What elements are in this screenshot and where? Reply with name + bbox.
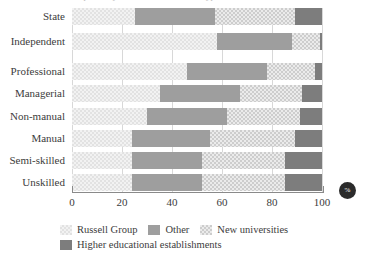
- x-tick-label-40: 40: [167, 196, 178, 208]
- bar-segment-managerial-other[interactable]: [160, 85, 240, 102]
- bar-row-professional: Professional: [72, 63, 322, 80]
- bar-segment-manual-new-universities[interactable]: [210, 130, 295, 147]
- bar-segment-non-manual-new-universities[interactable]: [227, 108, 300, 125]
- bar-row-state: State: [72, 8, 322, 25]
- y-axis-label-unskilled: Unskilled: [22, 174, 65, 191]
- bar-segment-state-new-universities[interactable]: [215, 8, 295, 25]
- bar-segment-independent-russell-group[interactable]: [72, 33, 217, 50]
- y-axis-label-managerial: Managerial: [15, 85, 65, 102]
- bar-segment-independent-higher-educational-establishments[interactable]: [320, 33, 323, 50]
- plot-area: StateIndependentProfessionalManagerialNo…: [72, 8, 322, 192]
- legend-swatch-russell-group-icon: [60, 225, 72, 235]
- bar-segment-independent-other[interactable]: [217, 33, 292, 50]
- legend-label-russell-group: Russell Group: [77, 224, 137, 235]
- legend-item-russell-group[interactable]: Russell Group: [60, 224, 137, 235]
- bar-segment-semi-skilled-new-universities[interactable]: [202, 152, 285, 169]
- y-axis-label-independent: Independent: [11, 33, 65, 50]
- bar-segment-unskilled-higher-educational-establishments[interactable]: [285, 174, 323, 191]
- bar-segment-non-manual-other[interactable]: [147, 108, 227, 125]
- bar-row-non-manual: Non-manual: [72, 108, 322, 125]
- chart-title-text: Participation by social class and school…: [60, 0, 219, 1]
- bar-segment-unskilled-new-universities[interactable]: [202, 174, 285, 191]
- bar-row-independent: Independent: [72, 33, 322, 50]
- bar-segment-managerial-new-universities[interactable]: [240, 85, 303, 102]
- bar-row-manual: Manual: [72, 130, 322, 147]
- bar-segment-managerial-higher-educational-establishments[interactable]: [302, 85, 322, 102]
- legend-swatch-higher-educational-establishments-icon: [60, 240, 72, 250]
- legend-label-other: Other: [165, 224, 189, 235]
- legend-item-other[interactable]: Other: [148, 224, 189, 235]
- x-axis-start-cap: [72, 186, 73, 192]
- bar-segment-managerial-russell-group[interactable]: [72, 85, 160, 102]
- chart-legend: Russell Group Other New universities Hig…: [60, 222, 360, 252]
- y-axis-label-state: State: [43, 8, 65, 25]
- stacked-bar-chart: Participation by social class and school…: [0, 0, 382, 256]
- bar-row-semi-skilled: Semi-skilled: [72, 152, 322, 169]
- bar-segment-manual-russell-group[interactable]: [72, 130, 132, 147]
- bar-segment-semi-skilled-russell-group[interactable]: [72, 152, 132, 169]
- bar-segment-manual-higher-educational-establishments[interactable]: [295, 130, 323, 147]
- bar-segment-state-russell-group[interactable]: [72, 8, 135, 25]
- bar-segment-unskilled-russell-group[interactable]: [72, 174, 132, 191]
- bar-row-unskilled: Unskilled: [72, 174, 322, 191]
- y-axis-label-manual: Manual: [31, 130, 65, 147]
- x-tick-label-60: 60: [217, 196, 228, 208]
- bar-row-managerial: Managerial: [72, 85, 322, 102]
- bar-segment-state-other[interactable]: [135, 8, 215, 25]
- y-axis-label-semi-skilled: Semi-skilled: [9, 152, 65, 169]
- legend-item-new-universities[interactable]: New universities: [200, 224, 288, 235]
- bar-segment-professional-russell-group[interactable]: [72, 63, 187, 80]
- bar-segment-professional-new-universities[interactable]: [267, 63, 315, 80]
- x-tick-label-20: 20: [117, 196, 128, 208]
- legend-row-1: Russell Group Other New universities: [60, 222, 360, 237]
- x-axis-line: [72, 192, 324, 193]
- bar-segment-non-manual-higher-educational-establishments[interactable]: [300, 108, 323, 125]
- percent-badge: %: [339, 182, 356, 199]
- bar-segment-non-manual-russell-group[interactable]: [72, 108, 147, 125]
- x-tick-label-0: 0: [69, 196, 75, 208]
- bar-segment-semi-skilled-other[interactable]: [132, 152, 202, 169]
- bar-segment-professional-higher-educational-establishments[interactable]: [315, 63, 323, 80]
- x-axis-end-cap: [323, 186, 324, 192]
- legend-label-higher-educational-establishments: Higher educational establishments: [77, 239, 222, 250]
- legend-row-2: Higher educational establishments: [60, 237, 360, 252]
- legend-swatch-new-universities-icon: [200, 225, 212, 235]
- chart-title-clipped: Participation by social class and school…: [0, 0, 382, 7]
- bar-segment-professional-other[interactable]: [187, 63, 267, 80]
- legend-swatch-other-icon: [148, 225, 160, 235]
- x-tick-label-100: 100: [314, 196, 331, 208]
- bar-segment-independent-new-universities[interactable]: [292, 33, 320, 50]
- legend-item-higher-educational-establishments[interactable]: Higher educational establishments: [60, 239, 222, 250]
- x-tick-label-80: 80: [267, 196, 278, 208]
- gridline-100: [322, 8, 323, 192]
- y-axis-label-non-manual: Non-manual: [10, 108, 65, 125]
- bar-segment-unskilled-other[interactable]: [132, 174, 202, 191]
- bar-segment-semi-skilled-higher-educational-establishments[interactable]: [285, 152, 323, 169]
- legend-label-new-universities: New universities: [217, 224, 288, 235]
- y-axis-label-professional: Professional: [11, 63, 65, 80]
- bar-segment-manual-other[interactable]: [132, 130, 210, 147]
- bar-segment-state-higher-educational-establishments[interactable]: [295, 8, 323, 25]
